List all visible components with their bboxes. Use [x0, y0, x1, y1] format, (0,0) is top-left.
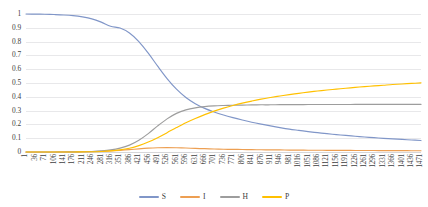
x-axis-tick-label: 211	[79, 154, 86, 164]
x-axis-tick-label: 666	[201, 154, 208, 164]
x-axis-tick-label: 946	[276, 154, 283, 164]
x-axis-tick-label: 806	[239, 154, 246, 164]
y-axis-tick-label: 0.6	[12, 65, 21, 72]
legend-item-h[interactable]: H	[220, 193, 248, 201]
x-axis-tick-label: 36	[32, 154, 39, 161]
x-axis-tick-label: 596	[182, 154, 189, 164]
x-axis-tick-label: 981	[286, 154, 293, 164]
x-axis-tick-label: 106	[51, 154, 58, 164]
x-axis-tick-label: 1051	[305, 154, 312, 168]
x-axis-tick-label: 1331	[380, 154, 387, 168]
x-axis-tick-label: 1086	[314, 154, 321, 168]
series-line-p	[26, 83, 421, 152]
legend-item-i[interactable]: I	[180, 193, 206, 201]
x-axis-tick-label: 1471	[417, 154, 424, 168]
x-axis-tick-label: 1296	[370, 154, 377, 168]
y-axis-tick-label: 1	[17, 10, 21, 17]
x-axis-tick-label: 1191	[342, 154, 349, 167]
x-axis-tick: 1471	[416, 154, 426, 188]
x-axis-tick-label: 246	[88, 154, 95, 164]
x-axis-tick-label: 561	[173, 154, 180, 164]
x-axis-tick-label: 491	[154, 154, 161, 164]
x-axis-tick-label: 1366	[389, 154, 396, 168]
x-axis-tick-label: 631	[192, 154, 199, 164]
x-axis-tick-label: 1156	[333, 154, 340, 167]
x-axis-tick-label: 141	[60, 154, 67, 164]
x-axis-tick-label: 421	[135, 154, 142, 164]
x-axis-tick-label: 911	[267, 154, 274, 164]
y-axis-tick-label: 0.3	[12, 107, 21, 114]
x-axis-tick-label: 456	[145, 154, 152, 164]
y-axis-tick-label: 0.1	[12, 134, 21, 141]
x-axis-tick-label: 1	[22, 154, 29, 157]
legend-label: I	[203, 193, 206, 201]
legend-swatch-icon	[220, 196, 240, 198]
series-line-h	[26, 104, 421, 152]
series-lines	[26, 14, 421, 152]
legend-swatch-icon	[180, 196, 200, 198]
legend-label: P	[285, 193, 289, 201]
x-axis-tick-label: 771	[229, 154, 236, 164]
legend-swatch-icon	[139, 196, 159, 198]
x-axis-tick-label: 1121	[323, 154, 330, 167]
x-axis-tick-label: 1436	[408, 154, 415, 168]
plot-area	[26, 14, 421, 152]
x-axis-tick-label: 386	[126, 154, 133, 164]
x-axis-tick-label: 701	[210, 154, 217, 164]
legend-item-p[interactable]: P	[262, 193, 289, 201]
legend-swatch-icon	[262, 196, 282, 198]
x-axis-tick-label: 841	[248, 154, 255, 164]
x-axis-tick-label: 876	[258, 154, 265, 164]
x-axis-tick-label: 1401	[399, 154, 406, 168]
x-axis-tick-label: 1226	[352, 154, 359, 168]
x-axis-tick-label: 281	[98, 154, 105, 164]
x-axis-tick-label: 1016	[295, 154, 302, 168]
x-axis-tick-label: 526	[163, 154, 170, 164]
x-axis: 1367110614117621124628131635138642145649…	[26, 153, 421, 189]
y-axis-tick-label: 0.8	[12, 38, 21, 45]
chart-legend: SIHP	[0, 190, 428, 204]
legend-label: H	[243, 193, 248, 201]
line-chart: 00.10.20.30.40.50.60.70.80.91 1367110614…	[0, 0, 428, 207]
x-axis-tick-label: 71	[41, 154, 48, 161]
y-axis-tick-label: 0.2	[12, 121, 21, 128]
x-axis-tick-label: 176	[69, 154, 76, 164]
x-axis-tick-label: 736	[220, 154, 227, 164]
x-axis-tick-label: 316	[107, 154, 114, 164]
x-axis-tick-label: 1261	[361, 154, 368, 168]
legend-label: S	[162, 193, 166, 201]
series-line-s	[26, 14, 421, 141]
y-axis-tick-label: 0.5	[12, 79, 21, 86]
y-axis-tick-label: 0.7	[12, 52, 21, 59]
x-axis-tick-label: 351	[116, 154, 123, 164]
legend-item-s[interactable]: S	[139, 193, 166, 201]
y-axis-tick-label: 0.9	[12, 24, 21, 31]
y-axis-tick-label: 0.4	[12, 93, 21, 100]
y-axis: 00.10.20.30.40.50.60.70.80.91	[0, 14, 24, 152]
